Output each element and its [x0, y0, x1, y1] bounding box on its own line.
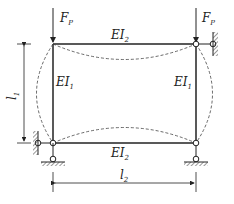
hinge-bottom-right [193, 140, 199, 146]
ground-right-hatch [184, 162, 208, 166]
frame-diagram: FP FP EI2 EI2 EI1 EI1 l1 l2 [0, 0, 234, 204]
left-column-label: EI1 [55, 75, 74, 91]
bottom-beam-label: EI2 [110, 146, 130, 162]
top-beam-label: EI2 [110, 28, 130, 44]
buckled-top-beam [53, 44, 196, 60]
right-column-label: EI1 [173, 75, 192, 91]
buckled-right-column [196, 44, 213, 143]
load-label-right: FP [201, 11, 215, 27]
wall-left-hatch [33, 131, 38, 155]
load-label-left: FP [59, 11, 73, 27]
ground-left-hatch [41, 162, 65, 166]
wall-right-hatch [213, 32, 218, 56]
dim-l2-label: l2 [120, 168, 129, 184]
buckled-bottom-beam [53, 128, 196, 144]
support-left-pin [50, 156, 56, 162]
dim-l1-label: l1 [5, 92, 21, 100]
support-right-pin [193, 156, 199, 162]
hinge-top-right [193, 41, 199, 47]
buckled-left-column [37, 44, 54, 143]
